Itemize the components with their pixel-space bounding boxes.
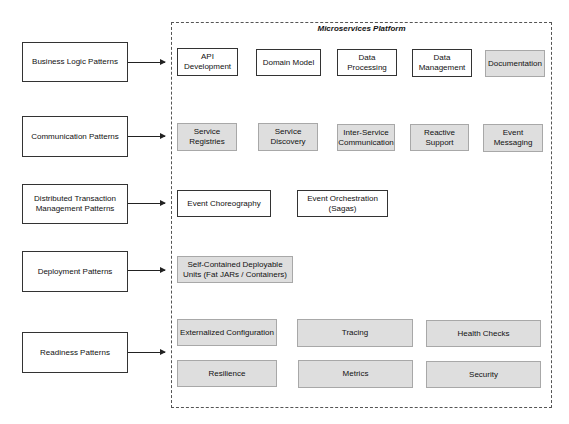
box-service-discovery: Service Discovery [258, 123, 318, 151]
box-health-checks: Health Checks [426, 320, 541, 347]
box-externalized-configuration: Externalized Configuration [177, 319, 277, 346]
box-data-management: Data Management [412, 49, 472, 77]
arrow-deployment [128, 270, 165, 271]
box-domain-model: Domain Model [256, 49, 321, 76]
box-reactive-support: Reactive Support [410, 124, 469, 151]
box-event-choreography: Event Choreography [177, 190, 271, 217]
box-self-contained-deployable-units: Self-Contained Deployable Units (Fat JAR… [177, 256, 293, 283]
arrow-readiness [128, 352, 165, 353]
category-deployment-patterns: Deployment Patterns [22, 251, 128, 292]
box-security: Security [426, 361, 541, 388]
box-metrics: Metrics [298, 360, 413, 388]
arrow-business-logic [128, 62, 165, 63]
box-documentation: Documentation [485, 50, 545, 77]
platform-title: Microservices Platform [171, 24, 552, 33]
box-api-development: API Development [177, 48, 238, 76]
box-event-messaging: Event Messaging [483, 124, 543, 152]
arrow-communication [128, 136, 165, 137]
category-business-logic-patterns: Business Logic Patterns [22, 42, 128, 82]
box-service-registries: Service Registries [177, 123, 237, 151]
category-distributed-transaction-patterns: Distributed Transaction Management Patte… [22, 184, 128, 224]
box-resilience: Resilience [177, 360, 277, 387]
box-data-processing: Data Processing [337, 49, 397, 76]
box-event-orchestration: Event Orchestration (Sagas) [297, 190, 388, 217]
category-readiness-patterns: Readiness Patterns [22, 332, 128, 373]
box-inter-service-communication: Inter-Service Communication [337, 124, 395, 151]
category-communication-patterns: Communication Patterns [22, 116, 128, 157]
arrow-distributed-transaction [128, 203, 165, 204]
box-tracing: Tracing [297, 319, 413, 347]
